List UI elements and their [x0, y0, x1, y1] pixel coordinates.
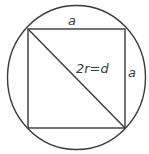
label-diagonal-2r-d: 2r=d [76, 61, 110, 76]
label-top-side-a: a [68, 13, 76, 28]
diagonal-line [28, 29, 125, 128]
label-right-side-a: a [128, 65, 136, 80]
inscribed-square-diagram: a a 2r=d [0, 0, 149, 154]
